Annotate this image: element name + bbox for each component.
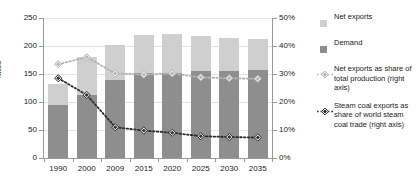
bar-group <box>105 18 125 158</box>
right-tick-label: 30% <box>279 70 309 78</box>
left-tick-mark <box>39 46 43 47</box>
left-tick-label: 200 <box>7 42 37 50</box>
right-tick-mark <box>273 158 277 159</box>
chart-container: Mtce 050100150200250 0%10%20%30%40%50% 1… <box>0 0 418 183</box>
left-tick-mark <box>39 102 43 103</box>
bar-segment-net-exports <box>134 35 154 73</box>
bar-segment-demand <box>48 105 68 158</box>
x-tick-mark <box>158 159 159 162</box>
legend-line-marker-icon <box>316 107 334 116</box>
left-tick-mark <box>39 74 43 75</box>
left-tick-label: 50 <box>7 126 37 134</box>
x-tick-mark <box>73 159 74 162</box>
left-tick-label: 0 <box>7 154 37 162</box>
legend-line-marker-icon <box>316 64 334 83</box>
bar-segment-net-exports <box>162 34 182 73</box>
bar-segment-net-exports <box>248 39 268 69</box>
left-tick-label: 250 <box>7 14 37 22</box>
right-tick-label: 10% <box>279 126 309 134</box>
bar-segment-net-exports <box>105 45 125 80</box>
right-axis-line <box>272 18 273 159</box>
y-axis-title: Mtce <box>0 61 3 78</box>
legend-item-label: Demand <box>334 38 362 48</box>
x-tick-mark <box>187 159 188 162</box>
bar-group <box>48 18 68 158</box>
chart-legend: Net exportsDemandNet exports as share of… <box>316 12 418 137</box>
left-tick-mark <box>39 158 43 159</box>
legend-line-marker-icon <box>316 70 334 79</box>
right-tick-mark <box>273 18 277 19</box>
bar-segment-demand <box>105 80 125 158</box>
bar-segment-net-exports <box>77 57 97 95</box>
x-tick-mark <box>272 159 273 162</box>
right-tick-label: 0% <box>279 154 309 162</box>
bar-group <box>248 18 268 158</box>
right-tick-mark <box>273 102 277 103</box>
legend-item: Demand <box>316 38 418 57</box>
bar-segment-net-exports <box>191 36 211 71</box>
legend-swatch-icon <box>316 12 334 31</box>
bar-segment-net-exports <box>48 84 68 106</box>
legend-swatch-icon <box>320 46 327 53</box>
bar-group <box>77 18 97 158</box>
x-tick-mark <box>101 159 102 162</box>
x-tick-mark <box>215 159 216 162</box>
legend-swatch-icon <box>316 38 334 57</box>
left-tick-mark <box>39 130 43 131</box>
bar-segment-net-exports <box>219 38 239 72</box>
right-tick-label: 20% <box>279 98 309 106</box>
bar-segment-demand <box>162 73 182 158</box>
x-tick-mark <box>130 159 131 162</box>
data-point-marker <box>324 73 327 76</box>
x-tick-mark <box>44 159 45 162</box>
bar-segment-demand <box>219 71 239 158</box>
right-tick-mark <box>273 46 277 47</box>
legend-swatch-icon <box>320 20 327 27</box>
left-tick-label: 150 <box>7 70 37 78</box>
legend-item-label: Steam coal exports as share of world ste… <box>334 101 418 130</box>
bar-group <box>134 18 154 158</box>
left-tick-label: 100 <box>7 98 37 106</box>
right-tick-mark <box>273 74 277 75</box>
bar-segment-demand <box>248 70 268 158</box>
legend-line-marker-icon <box>316 101 334 120</box>
bar-segment-demand <box>191 71 211 158</box>
left-axis-line <box>43 18 44 159</box>
left-tick-mark <box>39 18 43 19</box>
legend-item: Net exports as share of total production… <box>316 64 418 93</box>
legend-item: Net exports <box>316 12 418 31</box>
legend-item: Steam coal exports as share of world ste… <box>316 101 418 130</box>
right-tick-label: 40% <box>279 42 309 50</box>
legend-item-label: Net exports <box>334 12 372 22</box>
bar-group <box>191 18 211 158</box>
bar-group <box>219 18 239 158</box>
x-tick-mark <box>244 159 245 162</box>
bar-group <box>162 18 182 158</box>
x-tick-label: 2035 <box>238 164 278 173</box>
right-tick-label: 50% <box>279 14 309 22</box>
right-tick-mark <box>273 130 277 131</box>
legend-item-label: Net exports as share of total production… <box>334 64 418 93</box>
bar-segment-demand <box>134 73 154 158</box>
data-point-marker <box>324 110 327 113</box>
bar-segment-demand <box>77 95 97 158</box>
